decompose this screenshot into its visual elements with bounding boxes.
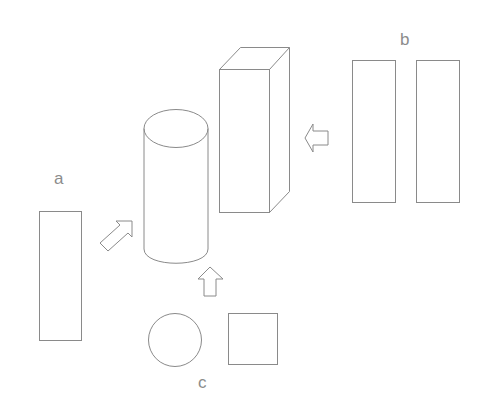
rectangle-b-left: [353, 61, 396, 203]
label-c: c: [198, 373, 207, 392]
arrow-up-right-icon: [100, 221, 132, 251]
arrow-up-icon: [198, 267, 223, 296]
label-a: a: [54, 169, 64, 188]
cylinder-shape: [144, 110, 208, 264]
arrow-left-icon: [305, 124, 328, 152]
circle-c: [149, 314, 202, 367]
rectangular-prism-shape: [220, 48, 290, 213]
rectangle-b-right: [417, 61, 460, 203]
rectangle-a: [40, 212, 82, 341]
diagram-canvas: a b c: [0, 0, 489, 410]
square-c: [229, 314, 278, 365]
label-b: b: [400, 30, 409, 49]
